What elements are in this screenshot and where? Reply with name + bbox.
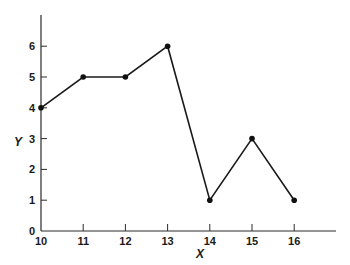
y-tick-label: 5 (29, 71, 35, 83)
x-tick-label: 15 (246, 235, 258, 247)
y-tick-label: 4 (29, 102, 36, 114)
y-tick-label: 1 (29, 194, 35, 206)
x-tick-label: 11 (77, 235, 89, 247)
line-chart: 0123456 10111213141516 Y X (0, 0, 350, 265)
y-tick-label: 6 (29, 40, 35, 52)
x-tick-label: 13 (161, 235, 173, 247)
x-ticks: 10111213141516 (35, 224, 300, 247)
y-tick-label: 3 (29, 133, 35, 145)
series-line (41, 46, 294, 200)
data-points (38, 43, 297, 203)
data-point-marker (123, 74, 129, 80)
y-axis-title: Y (14, 135, 23, 149)
x-tick-label: 12 (119, 235, 131, 247)
data-point-marker (38, 105, 44, 111)
x-axis-title: X (195, 247, 205, 261)
x-tick-label: 10 (35, 235, 47, 247)
data-point-marker (249, 136, 255, 142)
x-tick-label: 16 (288, 235, 300, 247)
y-ticks: 0123456 (29, 40, 47, 237)
x-tick-label: 14 (204, 235, 217, 247)
data-point-marker (80, 74, 86, 80)
data-point-marker (291, 197, 297, 203)
y-tick-label: 2 (29, 163, 35, 175)
data-point-marker (207, 197, 213, 203)
data-point-marker (165, 43, 171, 49)
